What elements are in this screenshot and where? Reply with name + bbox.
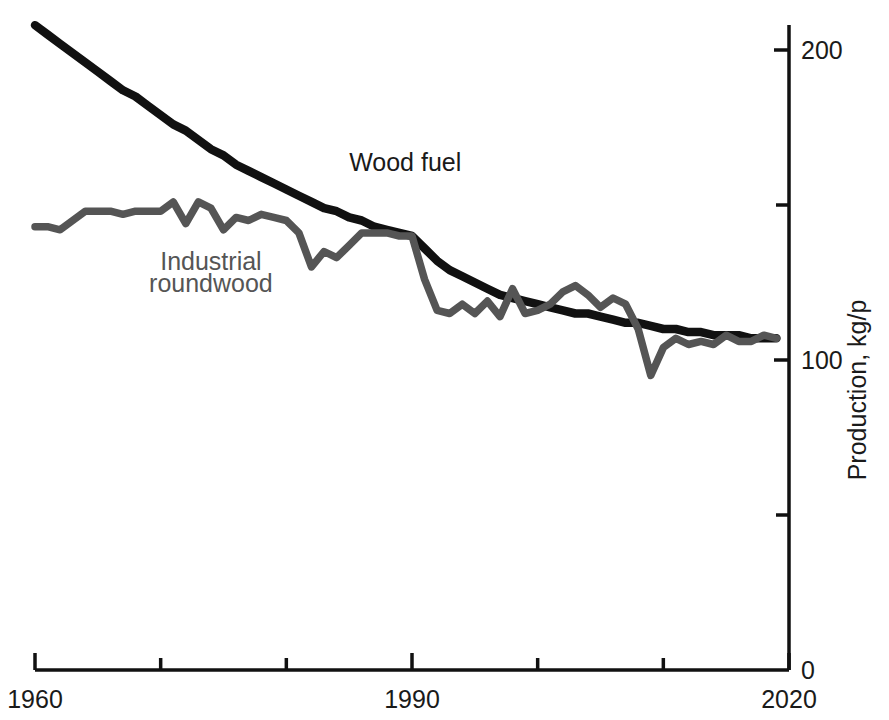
axes-layer [35, 25, 789, 670]
chart-figure: 0100200196019902020Production, kg/pWood … [0, 0, 889, 720]
y-tick-label: 200 [801, 36, 843, 64]
labels-layer: 0100200196019902020Production, kg/pWood … [7, 36, 871, 713]
x-tick-label: 1960 [7, 685, 63, 713]
y-tick-label: 0 [801, 656, 815, 684]
x-tick-label: 1990 [384, 685, 440, 713]
y-tick-label: 100 [801, 346, 843, 374]
series-annotation: Wood fuel [349, 148, 461, 176]
series-line-industrial-roundwood [35, 202, 776, 376]
series-layer [35, 25, 776, 375]
x-tick-label: 2020 [761, 685, 817, 713]
series-annotation: roundwood [149, 269, 273, 297]
y-axis-title: Production, kg/p [843, 300, 871, 481]
chart-svg: 0100200196019902020Production, kg/pWood … [0, 0, 889, 720]
series-line-wood-fuel [35, 25, 776, 338]
